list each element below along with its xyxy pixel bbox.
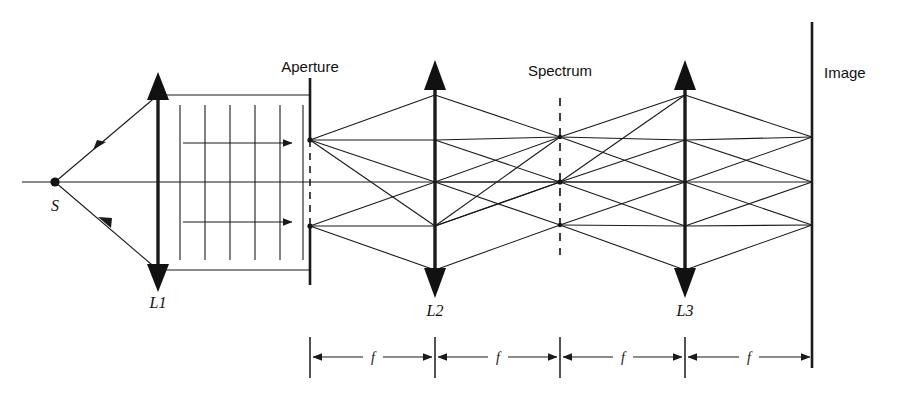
focal-dimension-4: f: [688, 346, 810, 366]
ray-direction-arrow-upper: [93, 140, 106, 150]
ray-fan-top-aperture-to-lens2: [310, 95, 435, 226]
focal-dimension-3: f: [563, 346, 682, 366]
lens2-label: L2: [426, 302, 444, 319]
lens1-label: L1: [149, 294, 167, 311]
optics-ray-diagram: S L1: [0, 0, 899, 408]
focal-dimension-2: f: [438, 346, 557, 366]
source-label: S: [51, 197, 59, 214]
focal-dimension-1: f: [313, 346, 432, 366]
rays-spectrum-to-lens3: [560, 95, 685, 270]
image-label: Image: [824, 64, 866, 81]
rays-lens2-to-spectrum: [435, 95, 560, 270]
spectrum-plane: [557, 98, 562, 255]
aperture-label: Aperture: [281, 58, 339, 75]
ray-direction-arrow-lower: [98, 217, 112, 228]
lens3-label: L3: [676, 302, 694, 319]
ray-fan-bottom-aperture-to-lens2: [310, 182, 435, 270]
spectrum-label: Spectrum: [528, 62, 592, 79]
